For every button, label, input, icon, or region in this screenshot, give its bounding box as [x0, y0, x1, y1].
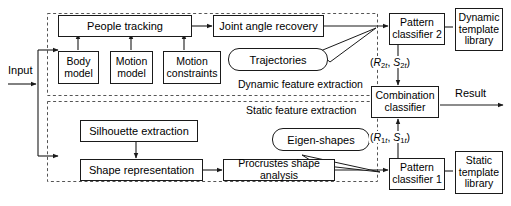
- node-body-model-label: Body model: [62, 56, 95, 80]
- node-people-tracking[interactable]: People tracking: [58, 15, 192, 37]
- gait-recognition-diagram: Input Result Dynamic feature extraction …: [0, 0, 511, 206]
- input-label: Input: [8, 64, 32, 76]
- node-shape-representation-label: Shape representation: [87, 164, 196, 176]
- node-motion-constraints-label: Motion constraints: [165, 56, 220, 80]
- node-body-model[interactable]: Body model: [58, 51, 99, 84]
- callout-eigen-shapes-label: Eigen-shapes: [285, 134, 356, 146]
- node-dynamic-template-library[interactable]: Dynamic template library: [455, 8, 503, 51]
- signal-label-dynamic-signature: (R2t, S2t): [369, 56, 411, 68]
- node-static-template-library-label: Static template library: [457, 155, 501, 190]
- node-motion-model[interactable]: Motion model: [110, 51, 153, 84]
- callout-trajectories[interactable]: Trajectories: [228, 48, 328, 71]
- node-shape-representation[interactable]: Shape representation: [80, 159, 203, 181]
- callout-trajectories-label: Trajectories: [247, 54, 308, 66]
- node-procrustes-shape-analysis-label: Procrustes shape analysis: [224, 158, 334, 182]
- node-pattern-classifier-2[interactable]: Pattern classifier 2: [389, 13, 445, 45]
- node-dynamic-template-library-label: Dynamic template library: [457, 12, 502, 47]
- node-procrustes-shape-analysis[interactable]: Procrustes shape analysis: [223, 159, 335, 181]
- node-combination-classifier-label: Combination classifier: [374, 90, 437, 114]
- node-joint-angle-recovery[interactable]: Joint angle recovery: [213, 15, 324, 37]
- result-label: Result: [455, 87, 486, 99]
- node-pattern-classifier-1[interactable]: Pattern classifier 1: [389, 158, 445, 190]
- signal-label-static-signature: (R1t, S1t): [369, 131, 411, 143]
- node-pattern-classifier-2-label: Pattern classifier 2: [390, 17, 444, 41]
- node-joint-angle-recovery-label: Joint angle recovery: [217, 20, 319, 32]
- node-motion-constraints[interactable]: Motion constraints: [163, 51, 221, 84]
- node-silhouette-extraction-label: Silhouette extraction: [87, 125, 191, 137]
- region-label-dynamic: Dynamic feature extraction: [236, 78, 365, 90]
- node-pattern-classifier-1-label: Pattern classifier 1: [390, 162, 444, 186]
- node-combination-classifier[interactable]: Combination classifier: [371, 86, 439, 118]
- region-label-static: Static feature extraction: [244, 104, 358, 116]
- node-silhouette-extraction[interactable]: Silhouette extraction: [80, 120, 198, 142]
- node-motion-model-label: Motion model: [114, 56, 150, 80]
- node-static-template-library[interactable]: Static template library: [455, 151, 503, 194]
- node-people-tracking-label: People tracking: [85, 20, 165, 32]
- callout-eigen-shapes[interactable]: Eigen-shapes: [272, 128, 370, 151]
